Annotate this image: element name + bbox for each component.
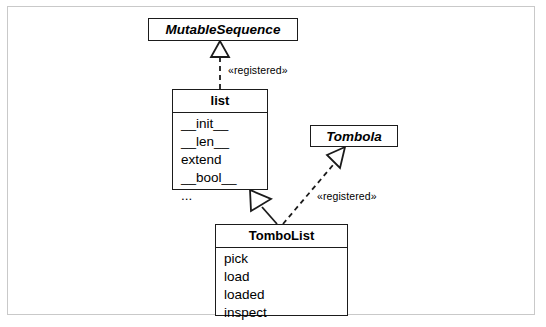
- class-member: ...: [181, 187, 267, 205]
- class-name-tombola: Tombola: [311, 126, 397, 148]
- class-member: load: [224, 268, 347, 286]
- edge-label-registered-tombola: «registered»: [317, 190, 377, 202]
- class-member: pick: [224, 250, 347, 268]
- class-members-tombolist: pick load loaded inspect: [216, 248, 347, 324]
- class-box-tombolist[interactable]: TomboList pick load loaded inspect: [215, 224, 348, 316]
- class-member: __bool__: [181, 169, 267, 187]
- class-name-mutablesequence: MutableSequence: [149, 19, 297, 42]
- class-member: inspect: [224, 304, 347, 322]
- edge-label-registered-mutablesequence: «registered»: [228, 64, 288, 76]
- class-member: loaded: [224, 286, 347, 304]
- class-box-mutablesequence[interactable]: MutableSequence: [148, 18, 298, 41]
- solid-line: [262, 207, 277, 224]
- class-member: __init__: [181, 115, 267, 133]
- class-member: __len__: [181, 133, 267, 151]
- class-name-list: list: [173, 90, 267, 113]
- class-box-list[interactable]: list __init__ __len__ extend __bool__ ..…: [172, 89, 268, 190]
- uml-diagram-figure: MutableSequence --> list --> Tombola -->…: [0, 0, 546, 327]
- connector-list-to-mutablesequence: [211, 41, 229, 89]
- class-member: extend: [181, 151, 267, 169]
- hollow-triangle-arrowhead: [327, 147, 345, 168]
- class-members-list: __init__ __len__ extend __bool__ ...: [173, 113, 267, 207]
- class-name-tombolist: TomboList: [216, 225, 347, 248]
- hollow-triangle-arrowhead: [211, 41, 229, 57]
- connector-tombolist-to-tombola: [283, 147, 345, 224]
- class-box-tombola[interactable]: Tombola: [310, 125, 398, 147]
